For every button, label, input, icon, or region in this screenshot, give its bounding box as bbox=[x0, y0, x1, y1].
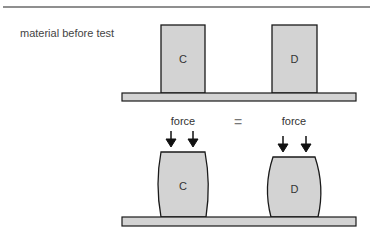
before-group: C D bbox=[122, 25, 356, 101]
shelf-bottom bbox=[122, 217, 356, 226]
sample-d-after-label: D bbox=[291, 183, 299, 195]
force-arrows-c bbox=[166, 131, 198, 147]
force-label-right: force bbox=[282, 115, 306, 127]
sample-d-before-label: D bbox=[291, 53, 299, 65]
force-label-left: force bbox=[171, 115, 195, 127]
force-arrows-d bbox=[278, 136, 311, 152]
shelf-top bbox=[122, 93, 356, 101]
compression-diagram: C D force = force C D bbox=[0, 0, 370, 229]
sample-c-before-label: C bbox=[179, 53, 187, 65]
sample-c-after-label: C bbox=[179, 180, 187, 192]
after-group: force = force C D bbox=[122, 114, 356, 226]
equals-sign: = bbox=[234, 114, 242, 130]
